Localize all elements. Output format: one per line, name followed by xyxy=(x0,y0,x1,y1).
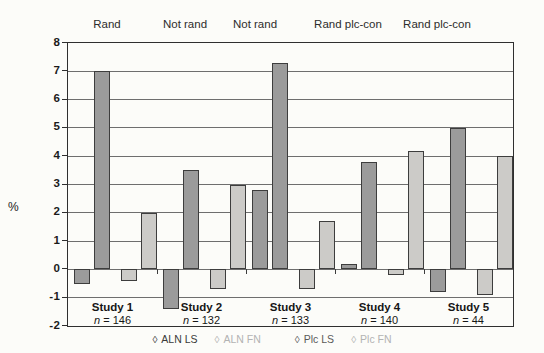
category-name: Study 2 xyxy=(157,301,246,313)
gridline-5 xyxy=(68,127,513,128)
category-label-study-4: Study 4n = 140 xyxy=(335,301,424,326)
y-tick-label-5: 5 xyxy=(36,120,60,132)
y-tick-label--2: -2 xyxy=(36,319,60,331)
bar-plc-fn-study-1 xyxy=(121,269,137,280)
plot-area: Study 1n = 146Study 2n = 132Study 3n = 1… xyxy=(67,42,514,327)
gridline-2 xyxy=(68,212,513,213)
category-label-study-3: Study 3n = 133 xyxy=(246,301,335,326)
legend-item-aln-fn: ◊ALN FN xyxy=(215,333,261,345)
y-tick-label--1: -1 xyxy=(36,290,60,302)
gridline--1 xyxy=(68,297,513,298)
bar-aln-fn-study-4 xyxy=(408,151,424,270)
bar-aln-ls-study-1 xyxy=(94,71,110,269)
bar-aln-fn-study-5 xyxy=(497,156,513,269)
y-tick-label-2: 2 xyxy=(36,205,60,217)
bar-aln-fn-study-1 xyxy=(141,213,157,270)
category-name: Study 1 xyxy=(68,301,157,313)
bar-plc-fn-study-2 xyxy=(210,269,226,289)
category-boundary-tick-4 xyxy=(424,269,425,274)
category-n-count: n = 146 xyxy=(68,314,157,326)
bar-aln-ls-study-3 xyxy=(272,63,288,270)
legend-item-aln-ls: ◊ALN LS xyxy=(152,333,197,345)
category-n-count: n = 44 xyxy=(424,314,513,326)
y-tick-label-3: 3 xyxy=(36,177,60,189)
y-tick-label-8: 8 xyxy=(36,36,60,48)
bar-plc-fn-study-4 xyxy=(388,269,404,275)
category-name: Study 5 xyxy=(424,301,513,313)
legend-item-plc-ls: ◊Plc LS xyxy=(295,333,334,345)
bar-aln-ls-study-5 xyxy=(450,128,466,270)
category-boundary-tick-3 xyxy=(335,269,336,274)
category-label-study-1: Study 1n = 146 xyxy=(68,301,157,326)
design-label-5: Rand plc-con xyxy=(367,18,507,30)
bar-plc-ls-study-1 xyxy=(74,269,90,283)
diamond-icon: ◊ xyxy=(215,334,220,345)
gridline-4 xyxy=(68,156,513,157)
y-tick-label-7: 7 xyxy=(36,64,60,76)
legend-label: Plc LS xyxy=(304,333,334,345)
y-tick-label-0: 0 xyxy=(36,262,60,274)
category-boundary-tick-1 xyxy=(157,269,158,274)
category-label-study-2: Study 2n = 132 xyxy=(157,301,246,326)
category-name: Study 3 xyxy=(246,301,335,313)
bar-aln-ls-study-4 xyxy=(361,162,377,270)
category-n-count: n = 133 xyxy=(246,314,335,326)
legend-item-plc-fn: ◊Plc FN xyxy=(351,333,391,345)
category-name: Study 4 xyxy=(335,301,424,313)
legend-label: ALN FN xyxy=(223,333,260,345)
bar-plc-ls-study-4 xyxy=(341,264,357,270)
diamond-icon: ◊ xyxy=(152,334,157,345)
category-boundary-tick-2 xyxy=(246,269,247,274)
gridline-1 xyxy=(68,241,513,242)
bar-plc-ls-study-5 xyxy=(430,269,446,292)
legend: ◊ALN LS◊ALN FN◊Plc LS◊Plc FN xyxy=(0,333,544,345)
category-label-study-5: Study 5n = 44 xyxy=(424,301,513,326)
diamond-icon: ◊ xyxy=(351,334,356,345)
legend-label: ALN LS xyxy=(161,333,197,345)
figure: % RandNot randNot randRand plc-conRand p… xyxy=(0,0,544,353)
bar-plc-fn-study-3 xyxy=(299,269,315,289)
legend-label: Plc FN xyxy=(360,333,392,345)
y-tick-label-6: 6 xyxy=(36,92,60,104)
bar-plc-ls-study-3 xyxy=(252,190,268,269)
y-tick-label-1: 1 xyxy=(36,234,60,246)
gridline-3 xyxy=(68,184,513,185)
diamond-icon: ◊ xyxy=(295,334,300,345)
bar-plc-fn-study-5 xyxy=(477,269,493,294)
category-n-count: n = 132 xyxy=(157,314,246,326)
bar-aln-fn-study-3 xyxy=(319,221,335,269)
bar-aln-ls-study-2 xyxy=(183,170,199,269)
gridline-6 xyxy=(68,99,513,100)
category-n-count: n = 140 xyxy=(335,314,424,326)
bar-aln-fn-study-2 xyxy=(230,185,246,270)
gridline-7 xyxy=(68,71,513,72)
y-tick-label-4: 4 xyxy=(36,149,60,161)
y-axis-title: % xyxy=(8,200,19,214)
